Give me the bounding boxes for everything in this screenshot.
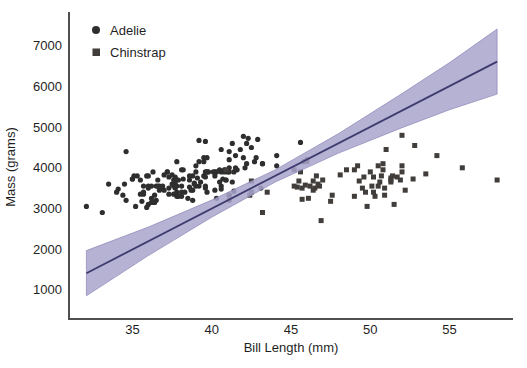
data-point-adelie — [133, 204, 138, 209]
legend-label-chinstrap: Chinstrap — [110, 45, 166, 60]
data-point-adelie — [139, 199, 144, 204]
data-point-adelie — [130, 176, 135, 181]
data-point-adelie — [146, 173, 151, 178]
data-point-adelie — [181, 176, 186, 181]
data-point-adelie — [187, 177, 192, 182]
data-point-adelie — [260, 161, 265, 166]
data-point-chinstrap — [317, 184, 322, 189]
data-point-adelie — [230, 141, 235, 146]
y-tick-label: 7000 — [33, 38, 62, 53]
data-point-adelie — [227, 157, 232, 162]
data-point-chinstrap — [330, 193, 335, 198]
data-point-chinstrap — [411, 177, 416, 182]
x-tick-label: 50 — [363, 322, 377, 337]
data-point-adelie — [219, 169, 224, 174]
data-point-chinstrap — [371, 175, 376, 180]
data-point-adelie — [227, 149, 232, 154]
data-point-chinstrap — [382, 186, 387, 191]
data-point-adelie — [196, 138, 201, 143]
data-point-adelie — [190, 188, 195, 193]
data-point-adelie — [171, 192, 176, 197]
data-point-chinstrap — [392, 202, 397, 207]
data-point-adelie — [192, 182, 197, 187]
data-point-adelie — [120, 193, 125, 198]
regression-layer — [86, 29, 497, 296]
data-point-adelie — [174, 159, 179, 164]
data-point-adelie — [238, 147, 243, 152]
data-point-chinstrap — [265, 190, 270, 195]
data-point-chinstrap — [376, 163, 381, 168]
data-point-adelie — [212, 173, 217, 178]
data-point-adelie — [196, 159, 201, 164]
data-point-chinstrap — [390, 173, 395, 178]
data-point-adelie — [246, 136, 251, 141]
data-point-adelie — [233, 165, 238, 170]
data-point-adelie — [124, 198, 129, 203]
points-layer — [84, 133, 500, 223]
data-point-adelie — [106, 182, 111, 187]
y-tick-label: 5000 — [33, 120, 62, 135]
data-point-chinstrap — [365, 204, 370, 209]
y-tick-label: 3000 — [33, 201, 62, 216]
data-point-chinstrap — [260, 210, 265, 215]
x-tick-labels: 3540455055 — [125, 322, 457, 337]
x-tick-label: 45 — [284, 322, 298, 337]
legend: Adelie Chinstrap — [92, 23, 166, 60]
data-point-adelie — [170, 172, 175, 177]
data-point-adelie — [162, 172, 167, 177]
data-point-chinstrap — [371, 190, 376, 195]
data-point-adelie — [84, 204, 89, 209]
x-tick-label: 55 — [442, 322, 456, 337]
data-point-adelie — [124, 149, 129, 154]
data-point-chinstrap — [308, 184, 313, 189]
data-point-adelie — [204, 169, 209, 174]
data-point-adelie — [203, 174, 208, 179]
data-point-chinstrap — [338, 172, 343, 177]
data-point-adelie — [219, 147, 224, 152]
data-point-adelie — [144, 205, 149, 210]
data-point-adelie — [179, 190, 184, 195]
data-point-chinstrap — [412, 143, 417, 148]
data-point-chinstrap — [368, 169, 373, 174]
y-axis-label: Mass (grams) — [3, 127, 18, 206]
y-tick-label: 6000 — [33, 79, 62, 94]
x-tick-label: 35 — [125, 322, 139, 337]
data-point-adelie — [190, 198, 195, 203]
data-point-chinstrap — [400, 163, 405, 168]
data-point-adelie — [255, 137, 260, 142]
data-point-chinstrap — [344, 167, 349, 172]
y-tick-label: 1000 — [33, 282, 62, 297]
data-point-chinstrap — [352, 194, 357, 199]
data-point-chinstrap — [320, 178, 325, 183]
data-point-adelie — [176, 177, 181, 182]
data-point-chinstrap — [300, 197, 305, 202]
data-point-adelie — [146, 184, 151, 189]
data-point-adelie — [138, 177, 143, 182]
data-point-adelie — [185, 196, 190, 201]
x-tick-label: 40 — [204, 322, 218, 337]
data-point-chinstrap — [296, 179, 301, 184]
data-point-chinstrap — [224, 167, 229, 172]
legend-marker-adelie-icon — [92, 26, 100, 34]
scatter-plot: 3540455055 1000200030004000500060007000 … — [0, 0, 527, 368]
data-point-chinstrap — [400, 169, 405, 174]
data-point-adelie — [149, 200, 154, 205]
data-point-adelie — [114, 190, 119, 195]
confidence-band — [86, 29, 497, 296]
data-point-adelie — [204, 155, 209, 160]
penguin-scatter-figure: 3540455055 1000200030004000500060007000 … — [0, 0, 527, 368]
x-axis-label: Bill Length (mm) — [244, 340, 339, 355]
y-tick-labels: 1000200030004000500060007000 — [33, 38, 62, 297]
data-point-chinstrap — [306, 196, 311, 201]
data-point-chinstrap — [403, 188, 408, 193]
data-point-adelie — [203, 184, 208, 189]
data-point-adelie — [244, 161, 249, 166]
data-point-chinstrap — [434, 153, 439, 158]
data-point-adelie — [274, 153, 279, 158]
data-point-chinstrap — [398, 178, 403, 183]
data-point-adelie — [298, 140, 303, 145]
data-point-chinstrap — [460, 165, 465, 170]
data-point-chinstrap — [495, 178, 500, 183]
data-point-adelie — [244, 141, 249, 146]
data-point-chinstrap — [361, 175, 366, 180]
